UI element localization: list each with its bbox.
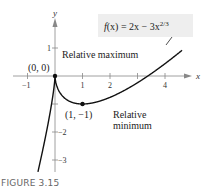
- relative-min-point: [80, 102, 84, 106]
- relative-maximum-annotation: Relative maximum: [62, 49, 139, 60]
- x-tick-label-neg1: −1: [22, 81, 31, 90]
- x-axis-label: x: [195, 71, 200, 81]
- relative-max-point: [53, 74, 57, 78]
- figure-caption: FIGURE 3.15: [1, 178, 59, 188]
- y-tick-label-neg2: −2: [58, 128, 67, 137]
- relative-minimum-annotation-line1: Relative: [113, 109, 147, 120]
- equation-label: f(x) = 2x − 3x2/3: [104, 20, 169, 33]
- y-axis-label: y: [52, 8, 57, 18]
- x-axis-arrow-icon: [184, 74, 192, 79]
- function-curve: [38, 50, 182, 172]
- min-point-label: (1, −1): [65, 109, 92, 121]
- y-tick-label-1: 1: [47, 44, 51, 53]
- relative-minimum-annotation-line2: minimum: [113, 120, 152, 131]
- x-tick-label-4: 4: [163, 81, 167, 90]
- function-graph: f(x) = 2x − 3x2/3 x y −1 1 2 4 1 −2 −3 (…: [0, 0, 213, 190]
- equation-leader-line: [166, 37, 172, 45]
- y-tick-label-neg3: −3: [58, 156, 67, 165]
- y-axis-arrow-icon: [53, 18, 58, 27]
- x-tick-label-2: 2: [108, 81, 112, 90]
- x-tick-label-1: 1: [81, 81, 85, 90]
- equation-exponent: 2/3: [160, 20, 169, 28]
- max-point-label: (0, 0): [28, 62, 50, 74]
